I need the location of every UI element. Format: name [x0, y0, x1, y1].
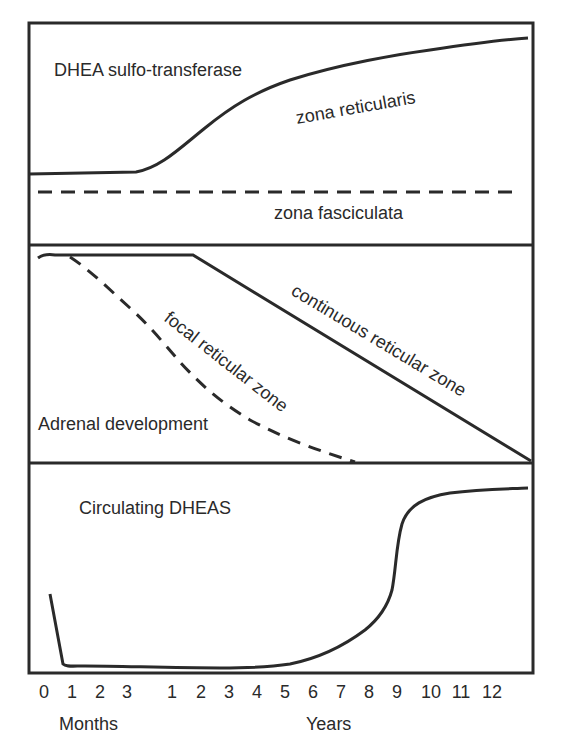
x-axis: 0 1 2 3 1 2 3 4 5 6 7 8 9 10 11 12 Month…	[39, 682, 502, 734]
tick-year-8: 8	[364, 682, 374, 702]
panel-top: DHEA sulfo-transferase zona reticularis …	[29, 38, 528, 223]
tick-year-11: 11	[452, 682, 471, 702]
tick-year-7: 7	[336, 682, 346, 702]
zona-reticularis-curve	[29, 38, 528, 174]
tick-year-1: 1	[167, 682, 177, 702]
continuous-reticular-zone-label: continuous reticular zone	[288, 280, 470, 400]
tick-month-0: 0	[39, 682, 49, 702]
panel-middle-title: Adrenal development	[38, 414, 208, 434]
tick-year-6: 6	[308, 682, 318, 702]
tick-year-4: 4	[252, 682, 262, 702]
zona-fasciculata-label: zona fasciculata	[274, 203, 404, 223]
months-axis-label: Months	[59, 714, 118, 734]
panel-bottom-title: Circulating DHEAS	[79, 498, 231, 518]
figure: DHEA sulfo-transferase zona reticularis …	[0, 0, 562, 755]
tick-year-3: 3	[224, 682, 234, 702]
panel-bottom: Circulating DHEAS	[50, 488, 528, 668]
figure-frame	[29, 23, 533, 673]
tick-year-9: 9	[392, 682, 402, 702]
tick-year-10: 10	[421, 682, 441, 702]
tick-year-12: 12	[482, 682, 502, 702]
panel-top-title: DHEA sulfo-transferase	[54, 60, 242, 80]
tick-month-1: 1	[67, 682, 77, 702]
tick-month-2: 2	[95, 682, 105, 702]
zona-reticularis-label: zona reticularis	[294, 87, 417, 128]
tick-year-5: 5	[280, 682, 290, 702]
tick-month-3: 3	[122, 682, 132, 702]
years-axis-label: Years	[306, 714, 351, 734]
panel-middle: continuous reticular zone focal reticula…	[38, 255, 531, 462]
focal-reticular-zone-label: focal reticular zone	[161, 307, 292, 416]
tick-year-2: 2	[196, 682, 206, 702]
